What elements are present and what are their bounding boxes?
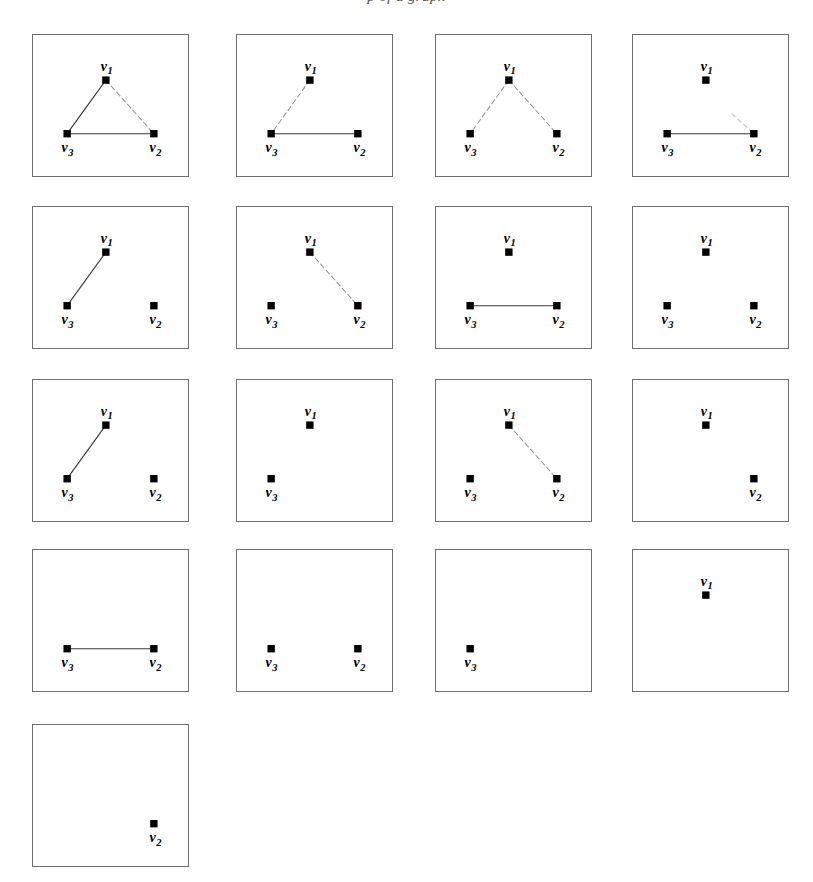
graph-vertex-v1 [505, 421, 512, 428]
subgraph-canvas [33, 380, 188, 521]
graph-vertex-v2 [354, 130, 361, 137]
vertex-label-v2: v2 [353, 313, 365, 330]
graph-vertex-v3 [466, 645, 473, 652]
graph-vertex-v2 [354, 645, 361, 652]
graph-vertex-v3 [63, 302, 70, 309]
graph-vertex-v2 [750, 130, 757, 137]
subgraph-panel: v2v3 [32, 549, 189, 692]
graph-vertex-v2 [150, 820, 157, 827]
graph-vertex-v1 [306, 76, 313, 83]
graph-edge [509, 80, 557, 134]
vertex-label-v2: v2 [149, 656, 161, 673]
vertex-label-v3: v3 [62, 313, 74, 330]
subgraph-canvas [436, 550, 591, 691]
graph-edge [310, 252, 358, 306]
vertex-label-v2: v2 [353, 656, 365, 673]
graph-vertex-v2 [553, 130, 560, 137]
subgraph-canvas [33, 725, 188, 866]
vertex-label-v1: v1 [101, 232, 113, 249]
subgraph-canvas [633, 550, 788, 691]
vertex-label-v3: v3 [62, 141, 74, 158]
graph-edge [470, 80, 509, 134]
graph-edge [67, 425, 106, 479]
subgraph-canvas [633, 380, 788, 521]
graph-edge [509, 425, 557, 479]
graph-vertex-v2 [750, 302, 757, 309]
vertex-label-v3: v3 [662, 313, 674, 330]
subgraph-canvas [33, 550, 188, 691]
vertex-label-v3: v3 [62, 656, 74, 673]
subgraph-panel: v1v3 [236, 379, 393, 522]
subgraph-panel: v1v2v3 [435, 206, 592, 349]
subgraph-panel: v2v3 [236, 549, 393, 692]
vertex-label-v1: v1 [701, 405, 713, 422]
graph-vertex-v1 [505, 76, 512, 83]
graph-vertex-v2 [750, 475, 757, 482]
subgraph-canvas [237, 207, 392, 348]
subgraph-canvas [33, 207, 188, 348]
vertex-label-v3: v3 [465, 313, 477, 330]
vertex-label-v3: v3 [465, 141, 477, 158]
subgraph-panel: v1 [632, 549, 789, 692]
vertex-label-v1: v1 [504, 232, 516, 249]
subgraph-panel: v1v2v3 [32, 34, 189, 177]
vertex-label-v2: v2 [149, 141, 161, 158]
subgraph-canvas [237, 35, 392, 176]
vertex-label-v2: v2 [149, 313, 161, 330]
subgraph-canvas [436, 207, 591, 348]
graph-edge [106, 80, 154, 134]
subgraph-canvas [436, 380, 591, 521]
vertex-label-v2: v2 [149, 486, 161, 503]
subgraph-canvas [33, 35, 188, 176]
graph-vertex-v3 [267, 645, 274, 652]
graph-vertex-v2 [150, 130, 157, 137]
subgraph-canvas [237, 550, 392, 691]
subgraph-panel: v2 [32, 724, 189, 867]
graph-vertex-v3 [63, 475, 70, 482]
graph-vertex-v1 [702, 421, 709, 428]
vertex-label-v1: v1 [305, 60, 317, 77]
vertex-label-v2: v2 [552, 486, 564, 503]
graph-vertex-v3 [267, 475, 274, 482]
subgraph-panel: v1v2v3 [435, 379, 592, 522]
vertex-label-v2: v2 [749, 313, 761, 330]
vertex-label-v2: v2 [353, 141, 365, 158]
graph-vertex-v1 [306, 248, 313, 255]
subgraph-panel: v3 [435, 549, 592, 692]
graph-vertex-v3 [663, 130, 670, 137]
vertex-label-v3: v3 [62, 486, 74, 503]
graph-vertex-v2 [150, 475, 157, 482]
vertex-label-v1: v1 [701, 232, 713, 249]
graph-edge [67, 80, 106, 134]
vertex-label-v2: v2 [552, 141, 564, 158]
subgraph-lattice-figure: p of a graph v1v2v3v1v2v3v1v2v3v1v2v3v1v… [0, 0, 813, 882]
vertex-label-v3: v3 [662, 141, 674, 158]
graph-vertex-v2 [553, 302, 560, 309]
vertex-label-v1: v1 [504, 405, 516, 422]
subgraph-panel: v1v2 [632, 379, 789, 522]
graph-vertex-v1 [702, 248, 709, 255]
vertex-label-v3: v3 [266, 486, 278, 503]
vertex-label-v3: v3 [266, 656, 278, 673]
vertex-label-v3: v3 [266, 313, 278, 330]
subgraph-panel: v1v2v3 [632, 206, 789, 349]
graph-vertex-v3 [466, 302, 473, 309]
top-caption-fragment: p of a graph [0, 0, 813, 4]
vertex-label-v1: v1 [305, 232, 317, 249]
graph-vertex-v3 [63, 130, 70, 137]
subgraph-panel: v1v2v3 [236, 34, 393, 177]
graph-vertex-v2 [354, 302, 361, 309]
subgraph-canvas [633, 207, 788, 348]
vertex-label-v1: v1 [101, 60, 113, 77]
graph-edge [67, 252, 106, 306]
graph-vertex-v2 [150, 645, 157, 652]
graph-vertex-v3 [267, 130, 274, 137]
vertex-label-v1: v1 [701, 575, 713, 592]
subgraph-panel: v1v2v3 [632, 34, 789, 177]
vertex-label-v2: v2 [552, 313, 564, 330]
graph-vertex-v3 [466, 130, 473, 137]
vertex-label-v1: v1 [305, 405, 317, 422]
graph-vertex-v1 [102, 248, 109, 255]
vertex-label-v2: v2 [749, 486, 761, 503]
subgraph-panel: v1v2v3 [32, 206, 189, 349]
